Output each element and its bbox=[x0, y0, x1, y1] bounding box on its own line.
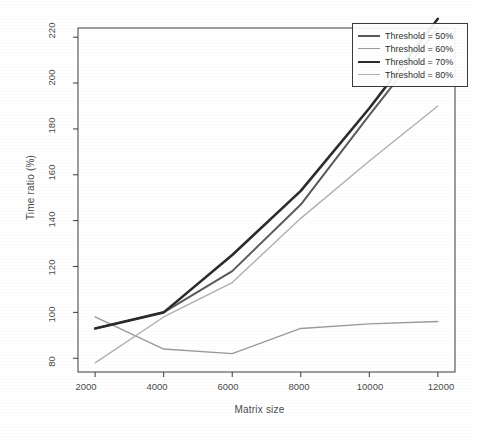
legend-swatch-icon bbox=[358, 35, 380, 37]
legend-item: Threshold = 80% bbox=[358, 68, 463, 81]
legend-item: Threshold = 50% bbox=[358, 29, 463, 42]
legend-label: Threshold = 70% bbox=[385, 57, 453, 67]
legend: Threshold = 50% Threshold = 60% Threshol… bbox=[352, 23, 468, 87]
legend-item: Threshold = 60% bbox=[358, 42, 463, 55]
legend-label: Threshold = 50% bbox=[385, 31, 453, 41]
legend-swatch-icon bbox=[358, 61, 380, 63]
chart-figure: Time ratio (%) Matrix size 80 100 120 14… bbox=[0, 0, 477, 440]
legend-swatch-icon bbox=[358, 48, 380, 49]
legend-label: Threshold = 60% bbox=[385, 44, 453, 54]
legend-swatch-icon bbox=[358, 74, 380, 75]
legend-item: Threshold = 70% bbox=[358, 55, 463, 68]
legend-label: Threshold = 80% bbox=[385, 70, 453, 80]
